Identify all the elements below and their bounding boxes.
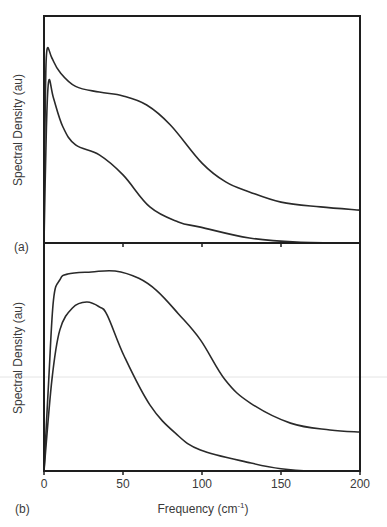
panel-b-series-lower-line (44, 302, 360, 471)
panel-b-curves (44, 271, 360, 472)
x-tick-label: 200 (350, 477, 370, 491)
panel-b-label: (b) (15, 502, 30, 516)
panel-b-ylabel: Spectral Density (au) (11, 302, 25, 414)
panel-b-series-upper-line (44, 271, 360, 471)
panel-a-ylabel: Spectral Density (au) (11, 74, 25, 186)
panel-b-tick-labels: 050100150200 (41, 477, 371, 491)
panel-a: Spectral Density (au) (a) (11, 48, 360, 254)
x-tick-label: 100 (192, 477, 212, 491)
panel-b: Spectral Density (au) (b) 050100150200 F… (11, 271, 370, 516)
spectral-density-figure: Spectral Density (au) (a) Spectral Densi… (0, 0, 387, 527)
x-tick-label: 150 (271, 477, 291, 491)
x-axis-label-main: Frequency (cm (157, 502, 237, 516)
x-axis-label: Frequency (cm-1) (157, 501, 248, 516)
panel-a-curves (44, 48, 360, 243)
x-tick-label: 50 (116, 477, 130, 491)
panel-a-label: (a) (14, 240, 29, 254)
panel-a-series-upper-line (44, 48, 360, 210)
x-tick-label: 0 (41, 477, 48, 491)
x-axis-label-suffix: ) (245, 502, 249, 516)
panel-a-series-lower-line (44, 80, 360, 243)
